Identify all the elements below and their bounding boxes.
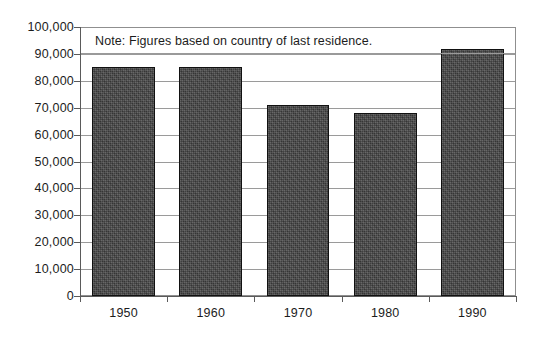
y-axis-tick-label: 30,000 bbox=[0, 209, 74, 221]
y-axis-tick-mark bbox=[74, 27, 81, 28]
bar-chart: 010,00020,00030,00040,00050,00060,00070,… bbox=[0, 0, 543, 354]
bar bbox=[267, 105, 330, 296]
note-box: Note: Figures based on country of last r… bbox=[81, 28, 515, 54]
y-axis-tick-label: 50,000 bbox=[0, 156, 74, 168]
bars-layer bbox=[80, 27, 516, 296]
x-axis-tick-label: 1980 bbox=[342, 306, 429, 320]
y-axis-tick-mark bbox=[74, 135, 81, 136]
y-axis-tick-label: 10,000 bbox=[0, 263, 74, 275]
y-axis-tick-mark bbox=[74, 54, 81, 55]
x-axis-tick-mark bbox=[167, 296, 168, 302]
chart-note: Note: Figures based on country of last r… bbox=[81, 34, 372, 48]
x-axis-tick-mark bbox=[342, 296, 343, 302]
y-axis-tick-mark bbox=[74, 162, 81, 163]
x-axis-tick-label: 1990 bbox=[429, 306, 516, 320]
bar bbox=[179, 67, 242, 296]
y-axis-tick-mark bbox=[74, 81, 81, 82]
y-axis-tick-mark bbox=[74, 108, 81, 109]
bar bbox=[441, 49, 504, 296]
x-axis-tick-label: 1970 bbox=[254, 306, 341, 320]
x-axis-tick-mark bbox=[516, 296, 517, 302]
y-axis-tick-label: 70,000 bbox=[0, 102, 74, 114]
x-axis-tick-mark bbox=[429, 296, 430, 302]
x-axis-line bbox=[80, 296, 517, 297]
y-axis: 010,00020,00030,00040,00050,00060,00070,… bbox=[0, 0, 74, 354]
bar bbox=[92, 67, 155, 296]
y-axis-tick-mark bbox=[74, 188, 81, 189]
y-axis-tick-label: 100,000 bbox=[0, 21, 74, 33]
y-axis-tick-label: 80,000 bbox=[0, 75, 74, 87]
x-axis-tick-label: 1960 bbox=[167, 306, 254, 320]
bar bbox=[354, 113, 417, 296]
y-axis-tick-label: 90,000 bbox=[0, 48, 74, 60]
y-axis-tick-label: 40,000 bbox=[0, 182, 74, 194]
y-axis-tick-mark bbox=[74, 269, 81, 270]
x-axis-tick-mark bbox=[80, 296, 81, 302]
x-axis-tick-label: 1950 bbox=[80, 306, 167, 320]
y-axis-tick-label: 60,000 bbox=[0, 129, 74, 141]
y-axis-tick-label: 20,000 bbox=[0, 236, 74, 248]
y-axis-tick-label: 0 bbox=[0, 290, 74, 302]
y-axis-tick-mark bbox=[74, 215, 81, 216]
x-axis-tick-mark bbox=[254, 296, 255, 302]
y-axis-tick-mark bbox=[74, 242, 81, 243]
x-axis: 19501960197019801990 bbox=[80, 306, 516, 336]
